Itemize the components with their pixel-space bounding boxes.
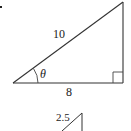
hypotenuse-label: 10 xyxy=(53,27,65,41)
right-angle-marker xyxy=(113,72,123,83)
stray-dot xyxy=(0,6,2,8)
second-hypotenuse-label: 2.5 xyxy=(56,111,70,123)
diagram-canvas: 10 8 θ 2.5 xyxy=(0,0,131,131)
theta-label: θ xyxy=(40,67,46,81)
main-triangle xyxy=(13,2,123,83)
base-label: 8 xyxy=(66,85,72,99)
angle-arc xyxy=(34,69,39,84)
hypotenuse-side xyxy=(13,2,123,83)
